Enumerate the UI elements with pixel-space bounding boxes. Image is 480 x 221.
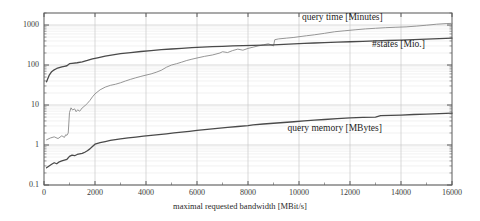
series-line-3: [47, 113, 452, 168]
series-label-1: query time [Minutes]: [302, 12, 383, 22]
y-axis-tick-label: 1000: [2, 20, 39, 29]
x-axis-tick-label: 10000: [277, 188, 321, 197]
x-axis-tick-label: 14000: [379, 188, 423, 197]
y-axis-tick-label: 1: [2, 140, 39, 149]
y-axis-tick-label: 100: [2, 60, 39, 69]
y-axis-tick-label: 10: [2, 100, 39, 109]
x-axis-title: maximal requested bandwidth [MBit/s]: [0, 201, 480, 211]
x-axis-tick-label: 6000: [175, 188, 219, 197]
series-label-3: query memory [MBytes]: [287, 123, 381, 133]
x-axis-tick-label: 12000: [328, 188, 372, 197]
x-axis-tick-label: 16000: [430, 188, 474, 197]
x-axis-tick-label: 4000: [124, 188, 168, 197]
chart-figure: 0.11101001000020004000600080001000012000…: [0, 0, 480, 221]
x-axis-tick-label: 2000: [73, 188, 117, 197]
series-label-2: #states [Mio.]: [372, 39, 425, 49]
x-axis-tick-label: 0: [22, 188, 66, 197]
x-axis-tick-label: 8000: [226, 188, 270, 197]
